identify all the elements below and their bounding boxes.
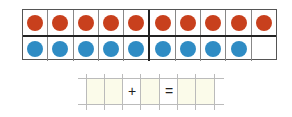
ten-frame-pair: [22, 9, 277, 60]
frame-cell: [226, 10, 251, 35]
frame-cell: [23, 10, 48, 35]
top-ten-frame-row: [23, 10, 276, 35]
frame-cell: [99, 37, 124, 61]
addend-box-3[interactable]: [141, 78, 159, 104]
blue-counter: [78, 41, 94, 57]
blue-counter: [180, 41, 196, 57]
addend-box-2[interactable]: [105, 78, 123, 104]
red-counter: [78, 15, 94, 31]
frame-cell: [176, 10, 201, 35]
frame-cell: [201, 37, 226, 61]
frame-cell: [124, 37, 150, 61]
grid-line: [195, 74, 196, 110]
frame-cell: [252, 10, 276, 35]
frame-cell: [150, 10, 175, 35]
blue-counter: [155, 41, 171, 57]
frame-cell: [48, 37, 73, 61]
blue-counter: [205, 41, 221, 57]
frame-cell: [23, 37, 48, 61]
sum-box-1[interactable]: [178, 78, 196, 104]
empty-frame-cell: [252, 37, 276, 61]
grid-line: [177, 74, 178, 110]
red-counter: [256, 15, 272, 31]
blue-counter: [103, 41, 119, 57]
addend-box-1[interactable]: [87, 78, 105, 104]
grid-line: [78, 78, 224, 79]
frame-cell: [176, 37, 201, 61]
blue-counter: [231, 41, 247, 57]
frame-cell: [150, 37, 175, 61]
blue-counter: [128, 41, 144, 57]
grid-line: [122, 74, 123, 110]
frame-cell: [226, 37, 251, 61]
grid-line: [214, 74, 215, 110]
grid-line: [86, 74, 87, 110]
plus-sign: +: [123, 78, 141, 104]
frame-cell: [99, 10, 124, 35]
red-counter: [155, 15, 171, 31]
blue-counter: [27, 41, 43, 57]
red-counter: [205, 15, 221, 31]
red-counter: [128, 15, 144, 31]
red-counter: [27, 15, 43, 31]
frame-cell: [74, 10, 99, 35]
red-counter: [103, 15, 119, 31]
equals-sign: =: [160, 78, 178, 104]
red-counter: [231, 15, 247, 31]
red-counter: [52, 15, 68, 31]
red-counter: [180, 15, 196, 31]
grid-line: [104, 74, 105, 110]
bottom-ten-frame-row: [23, 35, 276, 61]
sum-box-2[interactable]: [196, 78, 214, 104]
frame-cell: [48, 10, 73, 35]
frame-cell: [74, 37, 99, 61]
grid-line: [159, 74, 160, 110]
grid-line: [140, 74, 141, 110]
frame-cell: [201, 10, 226, 35]
blue-counter: [52, 41, 68, 57]
addition-equation-boxes: + =: [78, 74, 224, 110]
frame-cell: [124, 10, 150, 35]
grid-line: [78, 104, 224, 105]
